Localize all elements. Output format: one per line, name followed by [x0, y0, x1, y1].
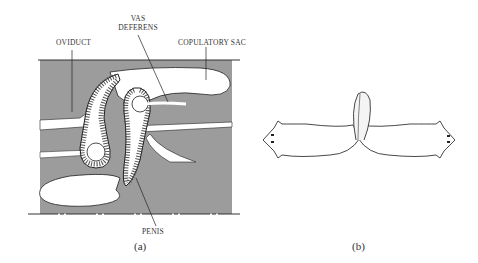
label-penis: PENIS	[142, 227, 164, 236]
label-vas-deferens-line2: DEFERENS	[118, 23, 158, 32]
caption-a: (a)	[134, 240, 146, 252]
label-vas-deferens-line1: VAS	[118, 14, 158, 23]
caption-b: (b)	[352, 240, 365, 252]
label-copulatory-sac: COPULATORY SAC	[178, 38, 246, 47]
label-oviduct: OVIDUCT	[56, 38, 91, 47]
label-vas-deferens: VAS DEFERENS	[118, 14, 158, 32]
panel-b-illustration	[263, 92, 455, 158]
panel-a-illustration	[28, 35, 240, 226]
